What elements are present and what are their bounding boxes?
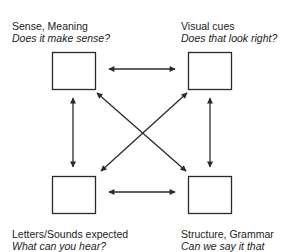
arrow-diagonal-tl-br	[97, 93, 186, 171]
box-sense-meaning	[53, 53, 96, 90]
arrow-diagonal-tr-bl	[101, 93, 187, 171]
box-letters-sounds	[53, 177, 96, 214]
cueing-diagram	[0, 0, 293, 252]
box-structure-grammar	[189, 177, 232, 214]
box-visual-cues	[189, 53, 232, 90]
